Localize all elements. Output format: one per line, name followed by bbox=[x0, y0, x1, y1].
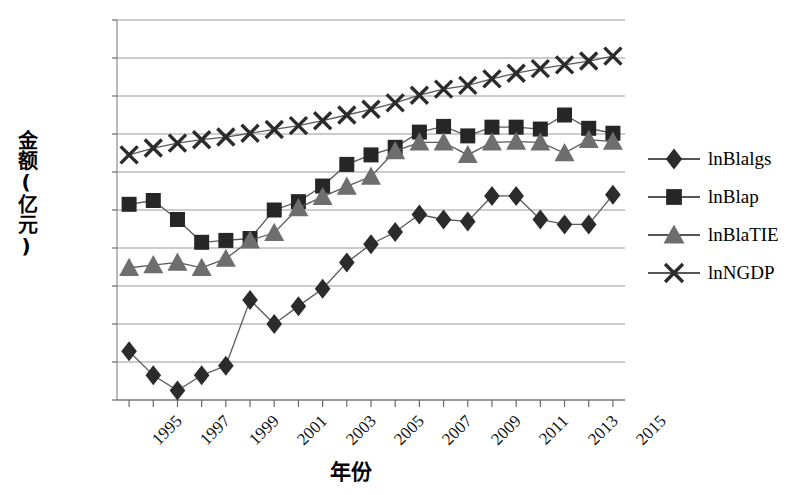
chart-legend: lnBlalgslnBlaplnBlaTIElnNGDP bbox=[648, 140, 796, 292]
legend-marker-square-icon bbox=[648, 183, 700, 211]
legend-marker-glyph bbox=[648, 183, 700, 211]
x-axis-tick-label: 1995 bbox=[149, 412, 185, 448]
legend-item-lnBlalgs[interactable]: lnBlalgs bbox=[648, 140, 796, 178]
legend-marker-triangle-icon bbox=[648, 221, 700, 249]
legend-item-lnBlaTIE[interactable]: lnBlaTIE bbox=[648, 216, 796, 254]
x-axis-tick-label: 2001 bbox=[294, 412, 330, 448]
marker-cross bbox=[665, 264, 683, 282]
x-axis-title: 年份 bbox=[330, 455, 372, 485]
marker-square bbox=[666, 189, 682, 205]
x-axis-tick-label: 2013 bbox=[584, 412, 620, 448]
legend-label: lnBlalgs bbox=[700, 148, 771, 170]
x-axis-tick-label: 2003 bbox=[343, 412, 379, 448]
legend-item-lnBlap[interactable]: lnBlap bbox=[648, 178, 796, 216]
chart-figure: 金额(亿元) 0.000 01.000 02.000 03.000 04.000… bbox=[0, 0, 796, 495]
legend-marker-glyph bbox=[648, 259, 700, 287]
x-axis-tick-label: 1997 bbox=[197, 412, 233, 448]
x-axis-tick-label: 1999 bbox=[246, 412, 282, 448]
legend-label: lnBlap bbox=[700, 186, 759, 208]
marker-triangle bbox=[664, 225, 685, 244]
x-axis-tick-label: 2011 bbox=[536, 412, 572, 448]
legend-marker-glyph bbox=[648, 221, 700, 249]
legend-label: lnBlaTIE bbox=[700, 224, 779, 246]
legend-marker-diamond-icon bbox=[648, 145, 700, 173]
legend-marker-glyph bbox=[648, 145, 700, 173]
x-axis-tick-label: 2009 bbox=[488, 412, 524, 448]
legend-label: lnNGDP bbox=[700, 262, 775, 284]
legend-marker-cross-icon bbox=[648, 259, 700, 287]
legend-item-lnNGDP[interactable]: lnNGDP bbox=[648, 254, 796, 292]
x-axis-tick-label: 2015 bbox=[633, 412, 669, 448]
x-axis-tick-label: 2007 bbox=[439, 412, 475, 448]
marker-diamond bbox=[666, 149, 682, 170]
x-axis-tick-label: 2005 bbox=[391, 412, 427, 448]
